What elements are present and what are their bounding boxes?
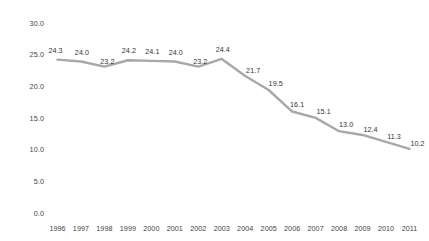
plot-area [0, 0, 429, 241]
data-label-2004: 21.7 [240, 67, 266, 75]
data-label-2005: 19.5 [263, 80, 289, 88]
data-label-1996: 24.3 [43, 47, 69, 55]
data-label-2000: 24.1 [139, 48, 165, 56]
data-label-1998: 23.2 [94, 58, 120, 66]
line-chart: 30.025.020.015.010.05.00.0 24.324.023.22… [0, 0, 429, 241]
data-label-2003: 24.4 [210, 46, 236, 54]
data-label-2011: 10.2 [405, 140, 429, 148]
data-label-2006: 16.1 [284, 101, 310, 109]
data-label-1999: 24.2 [116, 47, 142, 55]
data-label-2008: 13.0 [333, 121, 359, 129]
data-label-2007: 15.1 [311, 108, 337, 116]
data-label-1997: 24.0 [69, 49, 95, 57]
series-line-path [58, 59, 410, 149]
x-axis-tick-2011: 2011 [395, 224, 425, 233]
data-label-2002: 23.2 [187, 58, 213, 66]
data-label-2009: 12.4 [358, 126, 384, 134]
data-label-2010: 11.3 [381, 133, 407, 141]
data-label-2001: 24.0 [163, 49, 189, 57]
